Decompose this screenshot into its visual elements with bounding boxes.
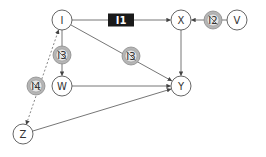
edge-i-y — [71, 25, 172, 81]
edge-z-y — [33, 89, 171, 131]
node-label: W — [57, 81, 67, 92]
intervention-label: I1 — [116, 15, 127, 26]
intervention-i1: I1 — [108, 14, 134, 27]
intervention-i4: I4 — [27, 77, 45, 95]
node-label: V — [234, 15, 241, 26]
intervention-i2: I2 — [204, 11, 222, 29]
intervention-i3a: I3 — [53, 46, 71, 64]
nodes-layer: IXVWYZ — [13, 10, 247, 144]
node-label: I — [61, 15, 64, 26]
node-y: Y — [171, 76, 191, 96]
edges-layer — [26, 20, 227, 131]
node-label: X — [178, 15, 185, 26]
edge-z-i — [26, 30, 58, 125]
node-i: I — [52, 10, 72, 30]
causal-diagram: I1I2I3I3I4 IXVWYZ — [0, 0, 266, 157]
node-label: Y — [177, 81, 185, 92]
intervention-i3b: I3 — [122, 47, 140, 65]
node-label: Z — [20, 129, 27, 140]
node-x: X — [171, 10, 191, 30]
node-z: Z — [13, 124, 33, 144]
node-w: W — [52, 76, 72, 96]
node-v: V — [227, 10, 247, 30]
